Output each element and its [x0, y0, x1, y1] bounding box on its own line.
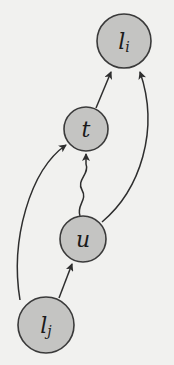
graph-svg: li t u lj — [0, 0, 174, 365]
diagram-canvas: li t u lj — [0, 0, 174, 365]
node-t: t — [64, 107, 108, 151]
node-lj: lj — [18, 297, 74, 353]
svg-text:t: t — [82, 117, 91, 142]
edge-t-to-li — [96, 72, 111, 108]
edge-u-to-t-wavy — [79, 154, 87, 216]
edge-lj-to-u — [59, 264, 72, 298]
edge-lj-to-t — [17, 145, 66, 300]
node-u: u — [60, 216, 106, 262]
node-li: li — [97, 14, 151, 68]
svg-text:u: u — [76, 227, 90, 252]
edge-u-to-li — [102, 72, 148, 222]
